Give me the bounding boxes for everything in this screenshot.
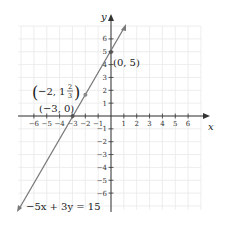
- svg-text:2: 2: [68, 83, 72, 91]
- y-tick-label: −1: [97, 125, 107, 133]
- y-tick-label: −2: [97, 138, 107, 146]
- x-tick-label: 2: [134, 120, 138, 128]
- y-tick-label: 4: [103, 61, 108, 69]
- y-axis-label: y: [100, 11, 107, 22]
- y-tick-label: 1: [103, 100, 107, 108]
- y-tick-label: 3: [103, 74, 107, 82]
- equation-label: −5x + 3y = 15: [26, 201, 101, 212]
- x-axis-label: x: [208, 121, 214, 132]
- x-tick-label: 1: [122, 120, 126, 128]
- point-neg3-0: [71, 114, 75, 118]
- x-tick-label: −6: [29, 120, 40, 128]
- x-tick-label: 3: [147, 120, 151, 128]
- y-tick-label: 5: [103, 48, 107, 56]
- y-tick-label: −6: [97, 190, 108, 198]
- svg-text:3: 3: [68, 92, 72, 100]
- y-tick-label: 6: [103, 35, 108, 43]
- label-point-neg2-1-2-3: ( −2, 1 2 3 ): [32, 83, 80, 102]
- point-neg2-1-2-3: [83, 93, 87, 97]
- x-tick-label: −2: [80, 120, 90, 128]
- line-arrow-top-icon: [121, 24, 126, 31]
- point-0-5: [109, 50, 113, 54]
- x-tick-label: −5: [42, 120, 52, 128]
- coordinate-graph: x y −6−5−4−3−2−1123456 −6−5−4−3−2−112345…: [0, 0, 225, 226]
- y-tick-label: −4: [97, 164, 108, 172]
- x-axis-arrow-icon: [203, 113, 210, 119]
- x-tick-label: 6: [186, 120, 191, 128]
- y-tick-label: 2: [103, 87, 107, 95]
- y-axis-arrow-icon: [108, 14, 114, 21]
- label-point-neg3-0: (−3, 0): [39, 103, 74, 114]
- x-tick-label: −4: [54, 120, 65, 128]
- svg-text:): ): [74, 83, 80, 102]
- x-tick-label: 5: [173, 120, 177, 128]
- x-tick-label: 4: [160, 120, 165, 128]
- y-tick-label: −3: [97, 151, 107, 159]
- svg-text:−2, 1: −2, 1: [38, 86, 65, 97]
- label-point-0-5: (0, 5): [113, 57, 140, 68]
- y-tick-label: −5: [97, 177, 107, 185]
